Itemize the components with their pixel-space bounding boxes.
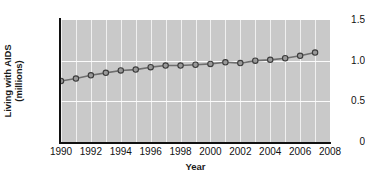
data-point-marker <box>163 63 168 68</box>
data-point-marker <box>73 76 78 81</box>
data-series-living-with-aids <box>61 20 330 142</box>
y-axis-line <box>59 18 61 144</box>
series-line <box>61 53 315 81</box>
y-axis-title-line2: (millions) <box>12 45 23 118</box>
data-point-marker <box>297 53 302 58</box>
chart-figure: Living with AIDS (millions) 1.51.00.50 1… <box>0 0 365 177</box>
y-axis-title-line1: Living with AIDS <box>1 45 12 118</box>
data-point-marker <box>312 50 317 55</box>
data-point-marker <box>61 78 64 83</box>
data-point-marker <box>118 68 123 73</box>
data-point-marker <box>133 67 138 72</box>
data-point-marker <box>103 70 108 75</box>
data-point-marker <box>193 62 198 67</box>
x-axis-line <box>59 142 331 144</box>
plot-area <box>61 20 330 142</box>
data-point-marker <box>88 73 93 78</box>
x-axis-title: Year <box>61 161 330 172</box>
data-point-marker <box>148 64 153 69</box>
x-axis-tick-label: 2008 <box>310 146 350 157</box>
series-markers <box>61 50 318 84</box>
y-axis-title: Living with AIDS (millions) <box>0 20 24 142</box>
data-point-marker <box>223 60 228 65</box>
data-point-marker <box>238 60 243 65</box>
data-point-marker <box>178 63 183 68</box>
data-point-marker <box>268 57 273 62</box>
data-point-marker <box>282 56 287 61</box>
data-point-marker <box>253 58 258 63</box>
data-point-marker <box>208 61 213 66</box>
